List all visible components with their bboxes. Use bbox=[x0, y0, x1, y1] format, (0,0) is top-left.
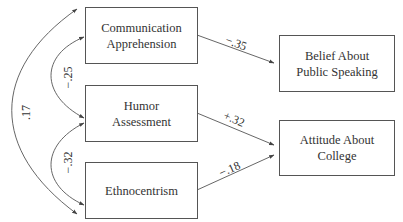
node-label: Belief About Public Speaking bbox=[296, 48, 378, 80]
node-communication-apprehension: Communication Apprehension bbox=[85, 7, 198, 64]
node-belief-public-speaking: Belief About Public Speaking bbox=[279, 35, 395, 92]
connector-layer bbox=[0, 0, 403, 222]
node-label: Humor Assessment bbox=[112, 98, 171, 130]
node-label: Communication Apprehension bbox=[101, 20, 182, 52]
coef-ca-humor: −.25 bbox=[61, 67, 76, 89]
node-ethnocentrism: Ethnocentrism bbox=[85, 162, 198, 219]
node-attitude-college: Attitude About College bbox=[279, 120, 395, 176]
path-diagram: Communication Apprehension Humor Assessm… bbox=[0, 0, 403, 222]
coef-ca-ethno: .17 bbox=[19, 105, 34, 120]
node-humor-assessment: Humor Assessment bbox=[85, 85, 198, 142]
node-label: Attitude About College bbox=[300, 132, 375, 164]
coef-humor-ethno: −.32 bbox=[61, 152, 76, 174]
node-label: Ethnocentrism bbox=[105, 183, 178, 199]
